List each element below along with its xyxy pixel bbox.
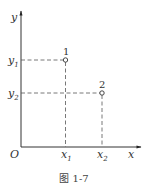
point-2 <box>100 91 104 95</box>
x1-label: x1 <box>61 148 72 163</box>
origin-label: O <box>10 148 19 161</box>
x2-label: x2 <box>97 148 108 163</box>
y-axis-label: y <box>10 11 18 24</box>
x-axis-label: x <box>128 148 135 161</box>
point-1-label: 1 <box>63 46 69 57</box>
y2-label: y2 <box>7 87 19 102</box>
point-1 <box>63 58 67 62</box>
y1-label: y1 <box>7 54 19 69</box>
point-2-label: 2 <box>99 79 105 90</box>
figure-caption: 图 1-7 <box>59 173 88 184</box>
coordinate-diagram: 1 2 y x O y1 y2 x1 x2 图 1-7 <box>0 0 149 193</box>
